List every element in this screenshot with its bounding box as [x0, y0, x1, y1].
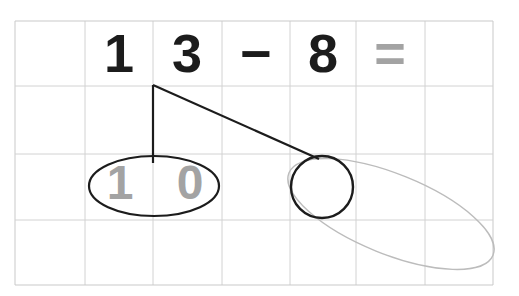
- subtrahend-digit: 8: [288, 26, 358, 80]
- worksheet-canvas: 1 3 − 8 = 1 0: [0, 0, 519, 296]
- equals-sign: =: [355, 26, 425, 80]
- ones-digit: 3: [152, 26, 222, 80]
- tens-digit: 1: [84, 26, 154, 80]
- ten-tens-digit: 1: [90, 159, 150, 207]
- minus-sign: −: [221, 26, 291, 80]
- decomposition-branches: [153, 85, 319, 163]
- unit-circle: [291, 156, 353, 218]
- sweep-ellipse: [274, 136, 508, 293]
- right-branch-line: [153, 85, 319, 159]
- ten-ones-digit: 0: [160, 159, 220, 207]
